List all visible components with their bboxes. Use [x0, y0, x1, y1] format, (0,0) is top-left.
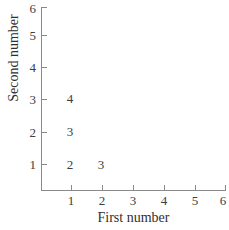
y-axis-tick-label: 1 — [22, 158, 36, 171]
y-axis-title: Second number — [6, 3, 22, 113]
y-axis-tick — [42, 164, 47, 165]
y-axis-tick — [42, 7, 47, 8]
x-axis-tick-label: 1 — [64, 194, 78, 207]
x-axis-title: First number — [0, 210, 229, 226]
x-axis-tick — [164, 185, 165, 190]
x-axis-line — [41, 190, 226, 191]
y-axis-tick-label: 5 — [22, 29, 36, 42]
scatter-plot-figure: 1 2 3 4 5 6 1 2 3 4 5 6 4 3 2 3 First nu… — [0, 0, 229, 230]
x-axis-tick-label: 6 — [216, 194, 229, 207]
x-axis-tick — [71, 185, 72, 190]
x-axis-tick-label: 2 — [95, 194, 109, 207]
x-axis-tick-label: 5 — [188, 194, 202, 207]
data-point-label: 2 — [62, 158, 78, 171]
data-point-label: 3 — [62, 125, 78, 138]
x-axis-tick-label: 3 — [126, 194, 140, 207]
x-axis-tick — [225, 185, 226, 190]
y-axis-tick-label: 2 — [22, 126, 36, 139]
y-axis-tick — [42, 67, 47, 68]
x-axis-tick — [133, 185, 134, 190]
y-axis-tick — [42, 132, 47, 133]
y-axis-tick — [42, 99, 47, 100]
y-axis-tick-label: 4 — [22, 61, 36, 74]
y-axis-tick-label: 3 — [22, 93, 36, 106]
x-axis-tick — [102, 185, 103, 190]
x-axis-tick-label: 4 — [157, 194, 171, 207]
data-point-label: 3 — [93, 158, 109, 171]
y-axis-tick-label: 6 — [22, 2, 36, 15]
x-axis-tick — [195, 185, 196, 190]
y-axis-tick — [42, 35, 47, 36]
data-point-label: 4 — [62, 92, 78, 105]
